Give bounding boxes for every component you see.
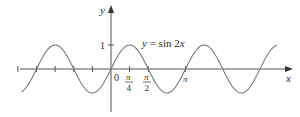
equation-mid: = sin 2 [147, 37, 180, 49]
equation-var: x [179, 37, 185, 49]
tick-label-pi: π [183, 74, 188, 84]
tick-label-pi-over-2: π 2 [143, 72, 151, 93]
tick-label-pi-over-4: π 4 [125, 72, 133, 93]
y-axis-label: y [99, 4, 105, 16]
svg-text:2: 2 [145, 83, 150, 93]
svg-text:π: π [144, 72, 149, 82]
y-axis-arrow-icon [108, 5, 114, 13]
x-axis-label: x [285, 72, 291, 84]
equation-label: y = sin 2x [141, 37, 185, 49]
origin-label: 0 [114, 72, 119, 83]
svg-text:π: π [126, 72, 131, 82]
y-tick-label-1: 1 [100, 40, 105, 51]
svg-text:4: 4 [127, 83, 132, 93]
sine-graph: y x 1 0 y = sin 2x π 4 π 2 π [0, 0, 300, 117]
